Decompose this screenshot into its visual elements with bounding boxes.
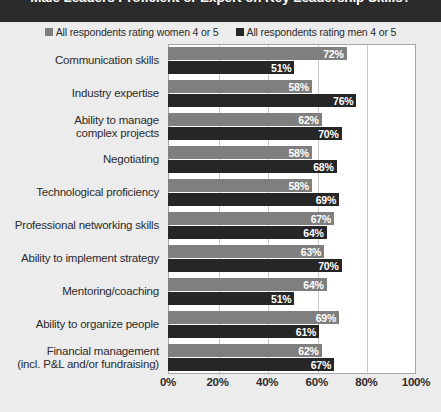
bar-women: 58% xyxy=(168,179,312,192)
bar-group: 64%51% xyxy=(168,275,416,308)
bar-value-label: 67% xyxy=(311,359,334,371)
bar-value-label: 69% xyxy=(316,194,339,206)
bar-value-label: 61% xyxy=(296,326,319,338)
bar-women: 62% xyxy=(168,113,322,126)
bar-women: 63% xyxy=(168,245,324,258)
bar-value-label: 68% xyxy=(313,161,336,173)
bar-women: 69% xyxy=(168,311,339,324)
bar-group: 58%76% xyxy=(168,77,416,110)
bar-men: 67% xyxy=(168,358,334,371)
bar-men: 68% xyxy=(168,160,337,173)
bar-value-label: 58% xyxy=(288,81,311,93)
bar-group: 72%51% xyxy=(168,44,416,77)
chart-legend: All respondents rating women 4 or 5All r… xyxy=(0,26,441,38)
category-label-line: Financial management xyxy=(17,345,159,358)
bar-women: 58% xyxy=(168,80,312,93)
category-label: Financial management(incl. P&L and/or fu… xyxy=(0,341,159,374)
bar-women: 64% xyxy=(168,278,327,291)
bar-women: 62% xyxy=(168,344,322,357)
category-label: Ability to organize people xyxy=(0,308,159,341)
bar-value-label: 51% xyxy=(271,293,294,305)
bar-value-label: 62% xyxy=(298,114,321,126)
bar-men: 51% xyxy=(168,292,294,305)
bar-men: 70% xyxy=(168,127,342,140)
bar-group: 58%69% xyxy=(168,176,416,209)
category-label: Industry expertise xyxy=(0,77,159,110)
x-axis-tick-label: 40% xyxy=(256,376,278,388)
chart-title-band: Male Leaders Proficient or Expert on Key… xyxy=(0,0,441,22)
legend-item: All respondents rating women 4 or 5 xyxy=(45,26,219,38)
bar-group: 58%68% xyxy=(168,143,416,176)
category-label: Ability to managecomplex projects xyxy=(0,110,159,143)
bar-men: 76% xyxy=(168,94,356,107)
category-label-line: Ability to implement strategy xyxy=(21,252,159,265)
category-label-line: Communication skills xyxy=(55,54,159,67)
bar-value-label: 70% xyxy=(318,260,341,272)
x-axis-tick-label: 60% xyxy=(306,376,328,388)
category-label-line: Ability to manage xyxy=(74,114,159,127)
bar-group: 69%61% xyxy=(168,308,416,341)
bar-women: 58% xyxy=(168,146,312,159)
bar-men: 61% xyxy=(168,325,319,338)
category-label-line: complex projects xyxy=(74,127,159,140)
bar-value-label: 58% xyxy=(288,147,311,159)
category-axis-labels: Communication skillsIndustry expertiseAb… xyxy=(0,44,164,374)
bar-group: 62%67% xyxy=(168,341,416,374)
legend-square-icon xyxy=(45,28,53,36)
legend-square-icon xyxy=(236,28,244,36)
legend-item: All respondents rating men 4 or 5 xyxy=(236,26,397,38)
category-label-line: Negotiating xyxy=(103,153,159,166)
x-axis-tick-label: 0% xyxy=(160,376,176,388)
legend-item-label: All respondents rating men 4 or 5 xyxy=(247,26,397,38)
category-label: Communication skills xyxy=(0,44,159,77)
bar-group: 62%70% xyxy=(168,110,416,143)
x-axis-tick-label: 80% xyxy=(355,376,377,388)
bar-series-container: 72%51%58%76%62%70%58%68%58%69%67%64%63%7… xyxy=(168,44,416,374)
x-axis-tick-labels: 0%20%40%60%80%100% xyxy=(168,376,416,394)
bar-women: 72% xyxy=(168,47,347,60)
bar-value-label: 72% xyxy=(323,48,346,60)
bar-value-label: 69% xyxy=(316,312,339,324)
bar-value-label: 70% xyxy=(318,128,341,140)
bar-value-label: 76% xyxy=(333,95,356,107)
category-label: Negotiating xyxy=(0,143,159,176)
category-label: Technological proficiency xyxy=(0,176,159,209)
bar-men: 51% xyxy=(168,61,294,74)
plot-region: 72%51%58%76%62%70%58%68%58%69%67%64%63%7… xyxy=(168,44,416,374)
bar-value-label: 58% xyxy=(288,180,311,192)
x-axis-tick-label: 100% xyxy=(402,376,431,388)
bar-men: 70% xyxy=(168,259,342,272)
category-label: Mentoring/coaching xyxy=(0,275,159,308)
bar-group: 67%64% xyxy=(168,209,416,242)
category-label-line: Ability to organize people xyxy=(36,318,159,331)
category-label: Ability to implement strategy xyxy=(0,242,159,275)
x-axis-tick-label: 20% xyxy=(206,376,228,388)
bar-value-label: 63% xyxy=(301,246,324,258)
bar-women: 67% xyxy=(168,212,334,225)
bar-value-label: 64% xyxy=(303,227,326,239)
bar-value-label: 67% xyxy=(311,213,334,225)
bar-value-label: 64% xyxy=(303,279,326,291)
bar-value-label: 62% xyxy=(298,345,321,357)
bar-value-label: 51% xyxy=(271,62,294,74)
bar-men: 69% xyxy=(168,193,339,206)
category-label-line: Mentoring/coaching xyxy=(62,285,159,298)
category-label-line: Technological proficiency xyxy=(36,186,159,199)
legend-item-label: All respondents rating women 4 or 5 xyxy=(56,26,219,38)
bar-group: 63%70% xyxy=(168,242,416,275)
bar-men: 64% xyxy=(168,226,327,239)
category-label-line: Industry expertise xyxy=(72,87,159,100)
chart-area: All respondents rating women 4 or 5All r… xyxy=(0,22,441,412)
chart-title: Male Leaders Proficient or Expert on Key… xyxy=(0,0,441,5)
category-label-line: (incl. P&L and/or fundraising) xyxy=(17,358,159,371)
category-label-line: Professional networking skills xyxy=(15,219,159,232)
category-label: Professional networking skills xyxy=(0,209,159,242)
